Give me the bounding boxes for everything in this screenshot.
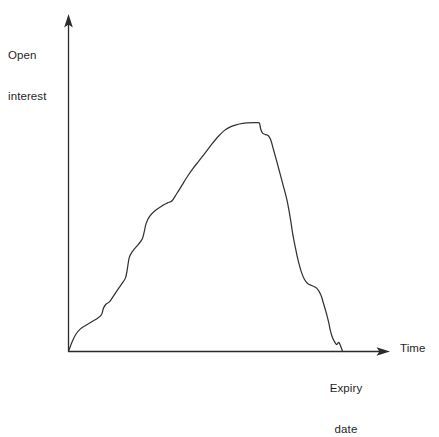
x-axis-label: Time [400, 342, 426, 356]
y-axis-label-line-2: interest [8, 90, 47, 104]
expiry-date-line-1: Expiry [318, 382, 374, 396]
y-axis-label-line-1: Open [8, 49, 47, 63]
expiry-date-annotation: Expiry date [318, 355, 374, 437]
expiry-date-line-2: date [318, 423, 374, 437]
y-axis-label: Open interest [8, 22, 47, 130]
